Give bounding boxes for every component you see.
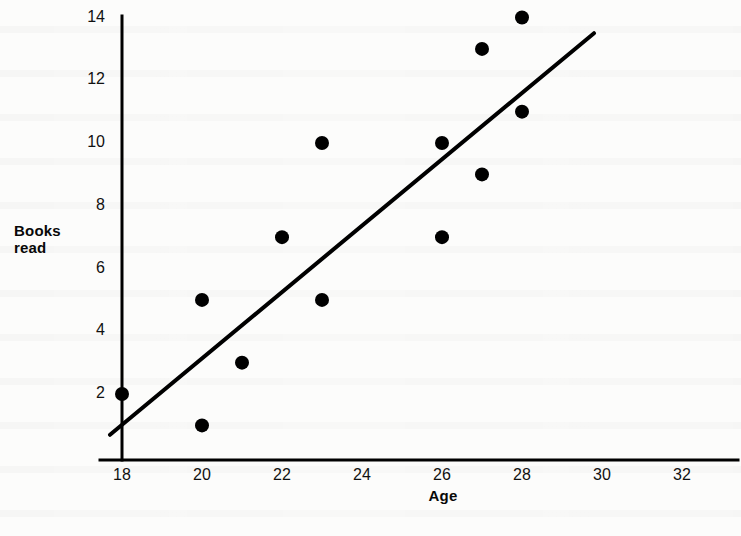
y-axis-title: Books read <box>14 222 90 257</box>
data-points-group <box>115 11 529 433</box>
data-point <box>315 293 329 307</box>
axes-group <box>100 16 738 460</box>
trend-line <box>110 33 594 435</box>
data-point <box>475 42 489 56</box>
x-axis-tick-label: 32 <box>666 466 698 484</box>
y-axis-tick-label: 4 <box>75 321 105 339</box>
x-axis-tick-label: 22 <box>266 466 298 484</box>
y-axis-tick-label: 2 <box>75 384 105 402</box>
y-axis-tick-label: 10 <box>75 133 105 151</box>
data-point <box>195 293 209 307</box>
scatter-plot-figure: 2468101214 1820222426283032 Books read A… <box>0 0 741 536</box>
data-point <box>315 136 329 150</box>
x-axis-tick-label: 28 <box>506 466 538 484</box>
y-axis-tick-label: 8 <box>75 196 105 214</box>
y-axis-tick-label: 14 <box>75 8 105 26</box>
data-point <box>515 105 529 119</box>
data-point <box>235 356 249 370</box>
x-axis-tick-label: 18 <box>106 466 138 484</box>
y-axis-title-line-1: Books <box>14 222 90 239</box>
x-axis-tick-label: 30 <box>586 466 618 484</box>
plot-canvas <box>0 0 741 536</box>
x-axis-tick-label: 20 <box>186 466 218 484</box>
x-axis-tick-label: 24 <box>346 466 378 484</box>
y-axis-tick-label: 12 <box>75 70 105 88</box>
data-point <box>275 230 289 244</box>
x-axis-title: Age <box>408 487 478 504</box>
y-axis-tick-label: 6 <box>75 259 105 277</box>
data-point <box>475 167 489 181</box>
data-point <box>195 418 209 432</box>
data-point <box>115 387 129 401</box>
x-axis-tick-label: 26 <box>426 466 458 484</box>
data-point <box>515 11 529 25</box>
y-axis-title-line-2: read <box>14 239 90 256</box>
data-point <box>435 230 449 244</box>
trend-line-segment <box>110 33 594 435</box>
data-point <box>435 136 449 150</box>
